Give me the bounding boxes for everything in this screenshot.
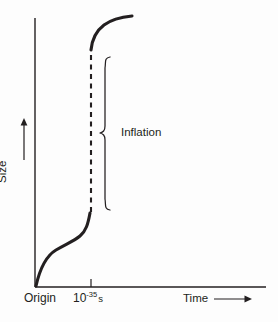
tick-exponent: -35	[86, 290, 97, 299]
y-axis-label: Size	[0, 161, 9, 183]
origin-label: Origin	[24, 292, 56, 304]
inflation-diagram: Origin 10-35s Time Size Inflation	[0, 0, 278, 322]
size-axis-arrow-icon	[21, 118, 28, 160]
x-axis-tick-label: 10-35s	[73, 292, 103, 304]
x-axis-label: Time	[183, 293, 208, 305]
diagram-canvas	[0, 0, 278, 322]
inflation-annotation-label: Inflation	[121, 127, 161, 139]
time-axis-arrow-icon	[214, 296, 252, 303]
inflation-brace	[100, 57, 110, 210]
pre-inflation-curve	[36, 213, 90, 286]
tick-mantissa: 10	[73, 291, 86, 305]
post-inflation-curve	[91, 16, 132, 50]
tick-unit: s	[98, 293, 103, 304]
